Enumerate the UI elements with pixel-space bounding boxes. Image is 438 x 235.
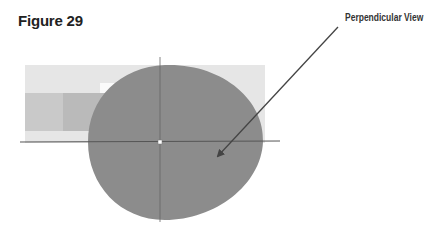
center-point	[158, 140, 162, 144]
diagram-canvas	[0, 0, 438, 235]
ellipse-shape	[88, 65, 263, 220]
